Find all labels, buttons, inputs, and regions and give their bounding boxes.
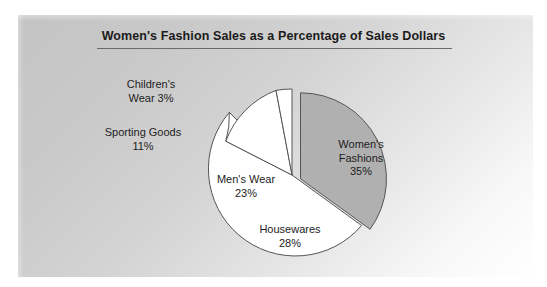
pie-label-housewares-line2: 28% [232,237,348,251]
pie-label-childrens-wear: Children's Wear 3% [96,78,206,105]
pie-label-sporting-goods-line1: Sporting Goods [78,126,208,140]
pie-label-mens-wear-line1: Men's Wear [192,173,300,187]
pie-chart-figure: Women's Fashion Sales as a Percentage of… [0,0,547,287]
pie-label-childrens-wear-line1: Children's [96,78,206,92]
pie-label-mens-wear: Men's Wear 23% [192,173,300,200]
pie-label-childrens-wear-line2: Wear 3% [96,92,206,106]
pie-label-housewares-line1: Housewares [232,223,348,237]
pie-label-mens-wear-line2: 23% [192,187,300,201]
pie-label-womens-fashions-line3: 35% [318,165,404,179]
pie-label-sporting-goods: Sporting Goods 11% [78,126,208,153]
pie-label-housewares: Housewares 28% [232,223,348,250]
pie-label-womens-fashions-line1: Women's [318,138,404,152]
pie-label-womens-fashions: Women's Fashions 35% [318,138,404,179]
pie-label-sporting-goods-line2: 11% [78,140,208,154]
pie-label-womens-fashions-line2: Fashions [318,152,404,166]
